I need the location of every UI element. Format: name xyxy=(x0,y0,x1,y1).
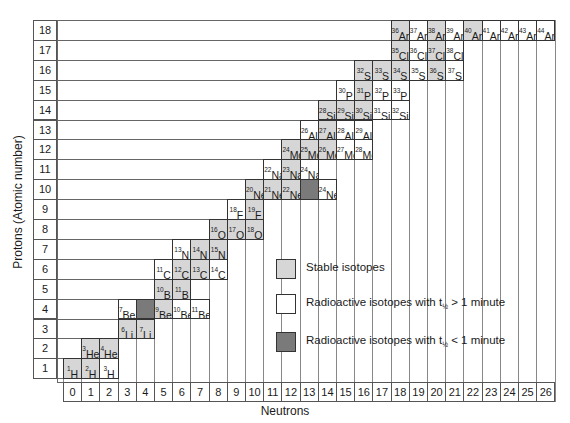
column-label-2: 2 xyxy=(99,382,118,402)
row-line xyxy=(57,319,118,320)
column-label-25: 25 xyxy=(518,382,537,402)
column-label-26: 26 xyxy=(536,382,555,402)
isotope-cell: 11C xyxy=(154,259,173,280)
isotope-cell: 37S xyxy=(445,60,464,81)
row-line xyxy=(57,139,300,140)
row-label-13: 13 xyxy=(33,120,57,141)
isotope-cell: 32P xyxy=(372,80,391,101)
isotope-cell: 12C xyxy=(172,259,191,280)
isotope-cell: 24Mg xyxy=(281,139,300,160)
row-line xyxy=(57,199,245,200)
y-axis-label: Protons (Atomic number) xyxy=(11,122,25,282)
isotope-cell: 16O xyxy=(209,219,228,240)
isotope-cell: 37Ar xyxy=(409,20,428,41)
isotope-cell: 21Ne xyxy=(263,179,282,200)
row-label-7: 7 xyxy=(33,239,57,260)
isotope-cell: 13N xyxy=(172,239,191,260)
legend-label-stable: Stable isotopes xyxy=(306,261,385,273)
column-label-3: 3 xyxy=(118,382,137,402)
isotope-cell: 11B xyxy=(172,279,191,300)
isotope-cell: 28Al xyxy=(336,120,355,141)
isotope-cell: 27Mg xyxy=(336,139,355,160)
row-label-8: 8 xyxy=(33,219,57,240)
isotope-cell: 7Be xyxy=(118,299,137,320)
isotope-cell: 38Ar xyxy=(427,20,446,41)
row-line xyxy=(57,179,263,180)
isotope-cell: 33S xyxy=(372,60,391,81)
nuclide-chart: Protons (Atomic number) Neutrons 1234567… xyxy=(0,0,570,423)
column-line xyxy=(281,199,282,382)
row-label-12: 12 xyxy=(33,139,57,160)
row-label-3: 3 xyxy=(33,319,57,340)
column-label-10: 10 xyxy=(245,382,264,402)
isotope-cell: 35Cl xyxy=(391,40,410,61)
column-line xyxy=(245,239,246,382)
column-label-1: 1 xyxy=(81,382,100,402)
column-line xyxy=(482,40,483,382)
row-line xyxy=(57,159,281,160)
isotope-cell: 37Cl xyxy=(427,40,446,61)
isotope-cell: 28Mg xyxy=(354,139,373,160)
x-axis-label: Neutrons xyxy=(0,404,570,418)
row-label-11: 11 xyxy=(33,159,57,180)
isotope-cell: 19F xyxy=(245,199,264,220)
isotope-cell: 41Ar xyxy=(482,20,501,41)
isotope-cell: 24Ne xyxy=(318,179,337,200)
grid-left-border xyxy=(57,20,58,382)
isotope-cell: 31P xyxy=(354,80,373,101)
row-label-15: 15 xyxy=(33,80,57,101)
isotope-cell: 30Si xyxy=(354,100,373,121)
isotope-cell: 23Na xyxy=(281,159,300,180)
column-label-19: 19 xyxy=(409,382,428,402)
isotope-cell: 7Li xyxy=(136,319,155,340)
row-line xyxy=(57,100,336,101)
isotope-cell: 10B xyxy=(154,279,173,300)
isotope-cell: 32Si xyxy=(391,100,410,121)
isotope-cell: 3H xyxy=(99,358,118,379)
isotope-cell: 15N xyxy=(209,239,228,260)
column-line xyxy=(172,319,173,383)
isotope-cell: 3He xyxy=(81,338,100,359)
isotope-cell: 14C xyxy=(209,259,228,280)
isotope-cell: 18F xyxy=(227,199,246,220)
row-label-16: 16 xyxy=(33,60,57,81)
isotope-cell: 25Mg xyxy=(300,139,319,160)
isotope-cell: 11Be xyxy=(190,299,209,320)
row-label-2: 2 xyxy=(33,338,57,359)
row-label-18: 18 xyxy=(33,20,57,41)
column-label-16: 16 xyxy=(354,382,373,402)
isotope-cell: 6Li xyxy=(118,319,137,340)
isotope-cell: 36Cl xyxy=(409,40,428,61)
row-label-4: 4 xyxy=(33,299,57,320)
isotope-cell: 2H xyxy=(81,358,100,379)
isotope-cell: 34S xyxy=(391,60,410,81)
grid-right-border xyxy=(555,20,556,402)
isotope-cell: 31Si xyxy=(372,100,391,121)
isotope-cell: 20Ne xyxy=(245,179,264,200)
column-line xyxy=(209,279,210,382)
column-label-23: 23 xyxy=(482,382,501,402)
row-label-14: 14 xyxy=(33,100,57,121)
column-line xyxy=(500,40,501,382)
row-label-9: 9 xyxy=(33,199,57,220)
row-line xyxy=(57,279,154,280)
column-line xyxy=(463,40,464,382)
column-label-21: 21 xyxy=(445,382,464,402)
column-label-8: 8 xyxy=(209,382,228,402)
row-label-5: 5 xyxy=(33,279,57,300)
legend-swatch-long xyxy=(276,294,296,314)
isotope-cell: 39Ar xyxy=(445,20,464,41)
legend-swatch-short xyxy=(276,332,296,352)
column-label-9: 9 xyxy=(227,382,246,402)
column-label-4: 4 xyxy=(136,382,155,402)
isotope-cell: 29Si xyxy=(336,100,355,121)
row-label-17: 17 xyxy=(33,40,57,61)
column-line xyxy=(518,40,519,382)
isotope-cell: 4He xyxy=(99,338,118,359)
isotope-cell: 43Ar xyxy=(518,20,537,41)
isotope-cell: 29Al xyxy=(354,120,373,141)
legend-swatch-stable xyxy=(276,259,296,279)
row-line xyxy=(57,40,391,41)
isotope-cell: 27Al xyxy=(318,120,337,141)
row-label-1: 1 xyxy=(33,358,57,379)
